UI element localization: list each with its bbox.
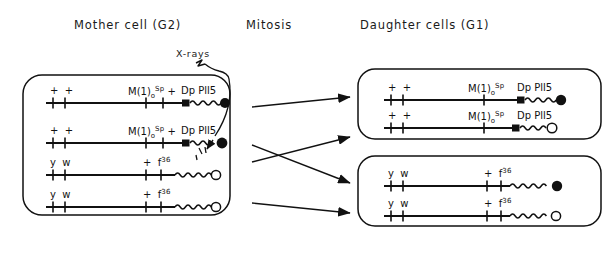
centromere-d1a [517,97,525,104]
arrow-m2-to-daughter-bottom [252,145,350,183]
chromosome-d1a [384,95,566,106]
diagram-vectors [0,0,611,256]
chromosome-m4 [46,202,221,213]
telomere-d1b-open [547,123,557,133]
telomere-m2-filled [217,138,228,149]
heterochromatin-d2b [510,214,546,218]
mitosis-diagram: Mother cell (G2) Mitosis Daughter cells … [0,0,611,256]
arrow-m1-to-daughter-top [252,97,350,107]
telomere-m3-open [211,170,220,179]
chromosome-d1b [384,123,557,134]
chromosome-d2a [384,181,562,192]
heterochromatin-m4 [175,205,211,209]
heterochromatin-m2 [190,141,211,145]
arrow-m4-to-daughter-bottom [252,203,350,213]
chromosome-m1 [46,98,230,109]
chromosome-m2 [46,138,227,149]
telomere-d2a-filled [552,181,562,191]
heterochromatin-m1 [190,101,221,105]
heterochromatin-d1b [520,126,546,130]
telomere-m4-open [211,202,220,211]
arrow-m3-to-daughter-top [252,137,350,162]
telomere-d2b-open [551,211,560,220]
chromosome-d2b [384,211,561,222]
chromosome-m3 [46,170,221,181]
heterochromatin-d1a [525,98,556,102]
heterochromatin-m3 [175,173,211,177]
centromere-m2 [182,140,190,147]
heterochromatin-d2a [510,184,546,188]
centromere-d1b [512,125,520,132]
centromere-m1 [182,100,190,107]
telomere-d1a-filled [556,95,566,105]
